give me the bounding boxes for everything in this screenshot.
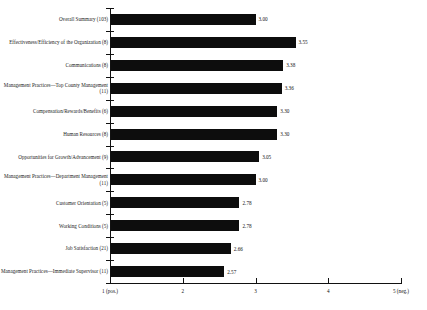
plot-area: Overall Summary (103)3.00Effectiveness/E… — [0, 0, 427, 310]
y-axis-tick — [106, 260, 114, 261]
bar — [110, 197, 239, 208]
bar-chart: Overall Summary (103)3.00Effectiveness/E… — [0, 0, 427, 310]
table-row: Human Resources (8)3.30 — [0, 123, 427, 146]
y-axis-tick — [106, 168, 114, 169]
y-axis-tick — [106, 8, 114, 9]
y-axis-tick — [106, 31, 114, 32]
table-row: Management Practices—Top County Manageme… — [0, 77, 427, 100]
bar-cell: 3.55 — [110, 31, 308, 54]
category-label-cell: Management Practices—Immediate Superviso… — [0, 260, 108, 283]
category-label: Communications (8) — [0, 62, 108, 68]
bar-value-label: 3.05 — [262, 154, 271, 160]
bar — [110, 37, 296, 48]
table-row: Effectiveness/Efficiency of the Organiza… — [0, 31, 427, 54]
table-row: Working Conditions (5)2.78 — [0, 214, 427, 237]
x-axis-tick-label: 5 (neg.) — [393, 288, 409, 294]
category-label: Management Practices—Top County Manageme… — [0, 82, 108, 95]
table-row: Compensation/Rewards/Benefits (6)3.30 — [0, 100, 427, 123]
table-row: Management Practices—Department Manageme… — [0, 168, 427, 191]
bar-value-label: 3.30 — [280, 131, 289, 137]
table-row: Overall Summary (103)3.00 — [0, 8, 427, 31]
bar-value-label: 3.00 — [259, 16, 268, 22]
bar-cell: 3.36 — [110, 77, 294, 100]
bar-cell: 2.66 — [110, 237, 243, 260]
bar-value-label: 3.55 — [299, 39, 308, 45]
bar — [110, 14, 256, 25]
x-axis-tick — [256, 278, 257, 284]
bar-cell: 2.78 — [110, 214, 252, 237]
y-axis-tick — [106, 214, 114, 215]
bar-cell: 3.38 — [110, 54, 295, 77]
category-label-cell: Effectiveness/Efficiency of the Organiza… — [0, 31, 108, 54]
bar — [110, 60, 283, 71]
x-axis-tick-label: 2 — [181, 288, 184, 294]
bar — [110, 106, 277, 117]
y-axis-tick — [106, 123, 114, 124]
category-label-cell: Management Practices—Department Manageme… — [0, 168, 108, 191]
table-row: Opportunities for Growth/Advancement (9)… — [0, 146, 427, 169]
bar-cell: 3.05 — [110, 146, 271, 169]
bar-value-label: 2.78 — [242, 223, 251, 229]
x-axis-tick — [183, 278, 184, 284]
category-label: Compensation/Rewards/Benefits (6) — [0, 108, 108, 114]
bar-cell: 2.57 — [110, 260, 236, 283]
category-label: Human Resources (8) — [0, 131, 108, 137]
category-label-cell: Management Practices—Top County Manageme… — [0, 77, 108, 100]
y-axis-tick — [106, 191, 114, 192]
bar-value-label: 2.66 — [234, 246, 243, 252]
bar-value-label: 3.30 — [280, 108, 289, 114]
bar — [110, 129, 277, 140]
bar-cell: 3.00 — [110, 168, 268, 191]
y-axis-tick — [106, 77, 114, 78]
category-label: Overall Summary (103) — [0, 16, 108, 22]
bar-value-label: 3.00 — [259, 177, 268, 183]
y-axis-tick — [106, 100, 114, 101]
category-label: Management Practices—Immediate Superviso… — [0, 268, 108, 274]
x-axis-tick-label: 1 (pos.) — [102, 288, 118, 294]
y-axis-tick — [106, 146, 114, 147]
category-label-cell: Job Satisfaction (21) — [0, 237, 108, 260]
category-label-cell: Customer Orientation (5) — [0, 191, 108, 214]
category-label: Job Satisfaction (21) — [0, 245, 108, 251]
bar-cell: 3.30 — [110, 123, 289, 146]
bar — [110, 266, 224, 277]
category-label: Customer Orientation (5) — [0, 200, 108, 206]
category-label: Opportunities for Growth/Advancement (9) — [0, 154, 108, 160]
category-label: Working Conditions (5) — [0, 223, 108, 229]
bar — [110, 220, 239, 231]
x-axis-tick-label: 3 — [254, 288, 257, 294]
table-row: Job Satisfaction (21)2.66 — [0, 237, 427, 260]
bar — [110, 243, 231, 254]
bar-cell: 3.30 — [110, 100, 289, 123]
bar-value-label: 2.78 — [242, 200, 251, 206]
category-label: Management Practices—Department Manageme… — [0, 173, 108, 186]
bar — [110, 174, 256, 185]
category-label: Effectiveness/Efficiency of the Organiza… — [0, 39, 108, 45]
bar-value-label: 3.38 — [286, 62, 295, 68]
category-label-cell: Communications (8) — [0, 54, 108, 77]
bar-value-label: 3.36 — [285, 85, 294, 91]
y-axis-tick — [106, 283, 114, 284]
category-label-cell: Overall Summary (103) — [0, 8, 108, 31]
bar-cell: 2.78 — [110, 191, 252, 214]
bar — [110, 151, 259, 162]
bar-value-label: 2.57 — [227, 269, 236, 275]
x-axis-tick — [401, 278, 402, 284]
category-label-cell: Human Resources (8) — [0, 123, 108, 146]
table-row: Communications (8)3.38 — [0, 54, 427, 77]
table-row: Customer Orientation (5)2.78 — [0, 191, 427, 214]
y-axis-tick — [106, 237, 114, 238]
x-axis-tick — [328, 278, 329, 284]
x-axis-tick-label: 4 — [327, 288, 330, 294]
bar-cell: 3.00 — [110, 8, 268, 31]
category-label-cell: Compensation/Rewards/Benefits (6) — [0, 100, 108, 123]
y-axis-tick — [106, 54, 114, 55]
table-row: Management Practices—Immediate Superviso… — [0, 260, 427, 283]
bar — [110, 83, 282, 94]
category-label-cell: Opportunities for Growth/Advancement (9) — [0, 146, 108, 169]
category-label-cell: Working Conditions (5) — [0, 214, 108, 237]
